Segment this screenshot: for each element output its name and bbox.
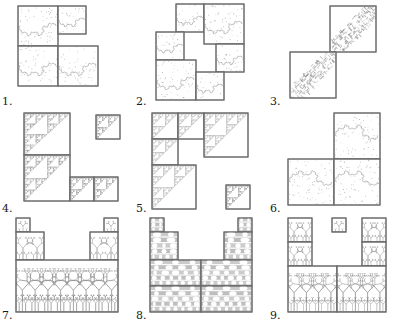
tile — [176, 4, 204, 32]
tile — [58, 6, 86, 34]
tile — [332, 218, 346, 232]
fractal-panel-7: 7. — [0, 214, 134, 321]
tile — [104, 218, 118, 232]
tile — [226, 185, 250, 209]
tile — [196, 72, 225, 100]
panel-label-7: 7. — [2, 310, 13, 321]
tile — [204, 4, 244, 44]
tile — [150, 286, 201, 312]
tile — [288, 159, 334, 206]
tile — [289, 50, 338, 101]
tile — [201, 286, 252, 312]
tile — [150, 260, 201, 286]
fractal-drawing — [0, 0, 134, 107]
tile — [96, 115, 120, 139]
tile — [12, 232, 48, 260]
fractal-panel-4: 4. — [0, 107, 134, 214]
tile — [359, 242, 390, 266]
tile — [86, 232, 122, 260]
tile — [152, 113, 178, 139]
fractal-drawing — [0, 107, 134, 214]
tile — [152, 139, 178, 165]
tile — [359, 218, 390, 242]
tile — [18, 6, 59, 47]
fractal-tiling-figure: 1.2.3.4.5.6.7.8.9. — [0, 0, 404, 321]
fractal-panel-5: 5. — [134, 107, 268, 214]
panel-label-2: 2. — [136, 96, 147, 107]
fractal-drawing — [134, 107, 268, 214]
tile — [1, 260, 133, 312]
tile — [330, 4, 377, 54]
tile — [285, 242, 316, 266]
tile — [224, 232, 252, 260]
tile — [150, 218, 164, 232]
tile — [70, 177, 94, 201]
fractal-panel-6: 6. — [268, 107, 402, 214]
panel-label-3: 3. — [270, 96, 281, 107]
tile — [94, 177, 118, 201]
fractal-panel-3: 3. — [268, 0, 402, 107]
tile — [16, 218, 30, 232]
tile — [178, 113, 204, 139]
fractal-panel-2: 2. — [134, 0, 268, 107]
tile — [156, 32, 185, 60]
tile — [24, 113, 70, 155]
fractal-drawing — [0, 214, 134, 321]
panel-label-8: 8. — [136, 310, 147, 321]
tile — [58, 46, 99, 87]
tile — [18, 46, 59, 86]
tile — [334, 113, 381, 159]
tile — [334, 159, 381, 206]
fractal-panel-8: 8. — [134, 214, 268, 321]
fractal-drawing — [268, 107, 402, 214]
tile — [24, 155, 70, 201]
fractal-panel-1: 1. — [0, 0, 134, 107]
panel-label-5: 5. — [136, 203, 147, 214]
fractal-drawing — [134, 214, 268, 321]
panel-label-9: 9. — [270, 310, 281, 321]
tile — [285, 218, 316, 242]
fractal-drawing — [268, 0, 402, 107]
tile — [156, 60, 196, 100]
tile — [204, 113, 248, 157]
tile — [238, 218, 252, 232]
panel-label-6: 6. — [270, 203, 281, 214]
fractal-panel-9: 9. — [268, 214, 402, 321]
tile — [152, 165, 196, 209]
tile — [216, 44, 245, 72]
tile — [201, 260, 252, 286]
fractal-drawing — [134, 0, 268, 107]
panel-label-4: 4. — [2, 203, 13, 214]
panel-label-1: 1. — [2, 96, 13, 107]
fractal-drawing — [268, 214, 402, 321]
tile — [150, 232, 178, 260]
